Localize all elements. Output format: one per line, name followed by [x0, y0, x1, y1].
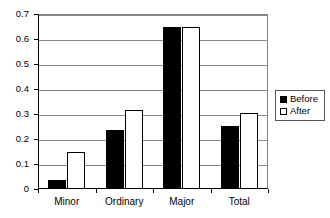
- x-axis-label-major: Major: [153, 196, 211, 207]
- legend-swatch-after-icon: [280, 108, 287, 115]
- y-axis-tick-label: 0.7: [0, 9, 34, 19]
- gridline: [39, 40, 267, 41]
- gridline: [39, 140, 267, 141]
- legend-label-after: After: [290, 106, 310, 116]
- y-axis-tick-label: 0.6: [0, 34, 34, 44]
- x-axis-label-minor: Minor: [38, 196, 96, 207]
- y-axis-tick-label: 0.1: [0, 159, 34, 169]
- x-axis-tick-mark: [211, 189, 212, 193]
- y-axis-tick-label: 0.2: [0, 134, 34, 144]
- gridline: [39, 15, 267, 16]
- x-axis-tick-mark: [153, 189, 154, 193]
- x-axis-label-ordinary: Ordinary: [96, 196, 154, 207]
- legend-item-before: Before: [280, 94, 320, 104]
- x-axis-tick-mark: [96, 189, 97, 193]
- y-axis-tick-label: 0.5: [0, 59, 34, 69]
- gridline: [39, 165, 267, 166]
- gridline: [39, 65, 267, 66]
- legend-swatch-before-icon: [280, 96, 287, 103]
- legend-label-before: Before: [290, 94, 318, 104]
- y-axis-tick-label: 0.4: [0, 84, 34, 94]
- x-axis-tick-mark: [268, 189, 269, 193]
- bar-chart: 00.10.20.30.40.50.60.7 MinorOrdinaryMajo…: [0, 0, 330, 218]
- plot-area: [38, 14, 268, 189]
- y-axis-tick-label: 0.3: [0, 109, 34, 119]
- y-axis-tick-label: 0: [0, 184, 34, 194]
- x-axis-label-total: Total: [211, 196, 269, 207]
- gridline: [39, 90, 267, 91]
- x-axis-tick-mark: [38, 189, 39, 193]
- legend: Before After: [275, 90, 325, 121]
- gridline: [39, 115, 267, 116]
- legend-item-after: After: [280, 106, 320, 116]
